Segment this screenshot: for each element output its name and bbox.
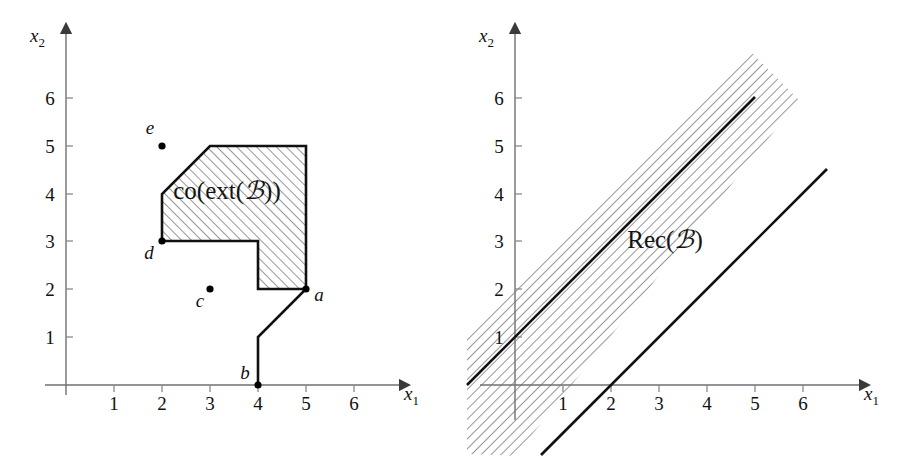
y-ticklabel-6: 6 (494, 88, 504, 109)
region-rec-fill (467, 52, 799, 456)
x-ticklabel-5: 5 (750, 393, 760, 414)
x-ticklabel-4: 4 (253, 393, 263, 414)
y-ticklabel-2: 2 (45, 279, 55, 300)
vertex-label-d: d (144, 242, 154, 263)
y-ticklabel-4: 4 (494, 184, 504, 205)
y-ticklabel-6: 6 (45, 88, 55, 109)
y-ticklabel-4: 4 (45, 184, 55, 205)
vertex-dot-c (206, 285, 213, 292)
figure-container: 1 2 3 4 5 6 1 2 3 4 5 6 (0, 0, 919, 456)
vertex-label-e: e (146, 117, 154, 138)
vertex-dot-e (158, 142, 165, 149)
vertex-label-c: c (196, 290, 205, 311)
vertex-dot-a (302, 285, 309, 292)
x-ticklabel-1: 1 (558, 393, 568, 414)
x-ticklabel-1: 1 (109, 393, 119, 414)
x-ticklabel-3: 3 (205, 393, 215, 414)
region-label-co-ext: co(ext(ℬ)) (173, 176, 280, 205)
cone-upper-boundary-line (467, 97, 755, 385)
y-axis-title: x2 (29, 25, 45, 50)
x-ticklabel-6: 6 (349, 393, 359, 414)
y-ticklabel-5: 5 (494, 136, 504, 157)
left-panel-svg: 1 2 3 4 5 6 1 2 3 4 5 6 (0, 0, 460, 456)
x-axis-title: x1 (863, 383, 879, 408)
x-ticklabel-2: 2 (606, 393, 616, 414)
x-ticklabel-2: 2 (157, 393, 167, 414)
y-ticklabel-5: 5 (45, 136, 55, 157)
y-ticklabel-1: 1 (45, 327, 55, 348)
vertex-dot-b (254, 381, 261, 388)
y-ticklabel-1: 1 (494, 327, 504, 348)
y-axis-title: x2 (478, 25, 494, 50)
region-label-rec: Rec(ℬ) (627, 225, 703, 254)
panel-rec: 1 2 3 4 5 6 1 2 3 4 5 6 x1 (460, 0, 919, 456)
y-ticklabel-2: 2 (494, 279, 504, 300)
x-ticklabel-6: 6 (798, 393, 808, 414)
x-ticklabel-4: 4 (702, 393, 712, 414)
panel-co-ext: 1 2 3 4 5 6 1 2 3 4 5 6 (0, 0, 460, 456)
x-axis-title: x1 (403, 383, 419, 408)
y-ticklabel-3: 3 (494, 231, 504, 252)
x-ticklabel-3: 3 (654, 393, 664, 414)
y-ticklabel-3: 3 (45, 231, 55, 252)
vertex-dot-d (158, 237, 165, 244)
vertex-label-a: a (314, 284, 324, 305)
right-panel-svg: 1 2 3 4 5 6 1 2 3 4 5 6 x1 (460, 0, 919, 456)
x-ticklabel-5: 5 (301, 393, 311, 414)
vertex-label-b: b (240, 362, 250, 383)
